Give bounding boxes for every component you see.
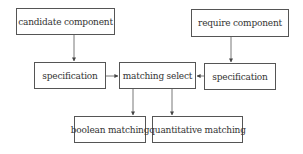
node-specification-left: specification [34, 62, 106, 89]
node-candidate-component: candidate component [16, 8, 115, 35]
node-label: boolean matching [71, 125, 149, 135]
node-boolean-matching: boolean matching [74, 116, 146, 143]
node-label: specification [42, 71, 97, 81]
node-label: quantitative matching [149, 125, 246, 135]
node-label: matching select [123, 71, 192, 81]
node-matching-select: matching select [119, 62, 196, 89]
node-label: candidate component [18, 17, 113, 27]
node-require-component: require component [191, 9, 289, 37]
node-quantitative-matching: quantitative matching [152, 116, 243, 143]
node-specification-right: specification [204, 63, 276, 90]
node-label: specification [212, 72, 267, 82]
node-label: require component [198, 18, 282, 28]
